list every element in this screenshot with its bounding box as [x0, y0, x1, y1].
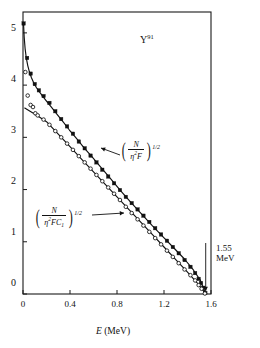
endpoint-unit: MeV	[216, 253, 235, 263]
endpoint-annotation: 1.55 MeV	[216, 243, 235, 263]
denominator-rest: FC	[51, 218, 61, 227]
isotope-label: Y91	[140, 34, 154, 45]
y-tick-label: 1	[2, 227, 16, 237]
fraction-numerator: N	[128, 140, 144, 149]
formula-exponent: 1/2	[152, 144, 160, 150]
y-tick-label: 2	[2, 176, 16, 186]
kurie-plot-svg	[0, 0, 260, 348]
denominator-rest: F	[137, 152, 142, 161]
fraction-denominator: η2FC1	[42, 215, 66, 228]
plot-frame	[23, 12, 211, 294]
x-tick-label: 0.8	[105, 300, 129, 309]
y-tick-label: 5	[2, 23, 16, 33]
fraction-denominator: η2F	[128, 149, 144, 161]
formula-lower-body: (Nη2FC1)1/2	[34, 206, 82, 228]
formula-lower-curve: (Nη2FC1)1/2	[34, 206, 82, 228]
left-paren-icon: (	[36, 210, 40, 224]
c-subscript: 1	[61, 222, 64, 228]
x-axis-unit: (MeV)	[104, 326, 130, 336]
x-axis-title: E (MeV)	[96, 327, 130, 337]
right-paren-icon: )	[69, 210, 73, 224]
x-tick-label: 0.4	[58, 300, 82, 309]
figure-container: 5 4 3 2 1 0 0 0.4 0.8 1.2 1.6 E (MeV) Y9…	[0, 0, 260, 348]
axis-ticks	[23, 33, 211, 294]
formula-upper-curve: (Nη2F)1/2	[120, 140, 160, 161]
x-tick-label: 0	[11, 300, 35, 309]
isotope-mass-number: 91	[147, 33, 154, 40]
x-tick-label: 1.6	[199, 300, 223, 309]
x-tick-label: 1.2	[152, 300, 176, 309]
right-paren-icon: )	[147, 143, 151, 157]
y-tick-label: 0	[2, 278, 16, 288]
fraction-numerator: N	[42, 206, 66, 215]
y-tick-label: 4	[2, 74, 16, 84]
endpoint-value: 1.55	[216, 243, 235, 253]
left-paren-icon: (	[122, 143, 126, 157]
data-points	[22, 22, 207, 295]
formula-upper-body: (Nη2F)1/2	[120, 140, 160, 161]
y-tick-label: 3	[2, 125, 16, 135]
fraction-lower: Nη2FC1	[41, 206, 67, 228]
formula-exponent: 1/2	[74, 210, 82, 216]
x-axis-symbol: E	[96, 326, 102, 336]
annotation-arrows	[92, 147, 208, 291]
fraction-upper: Nη2F	[127, 140, 145, 161]
